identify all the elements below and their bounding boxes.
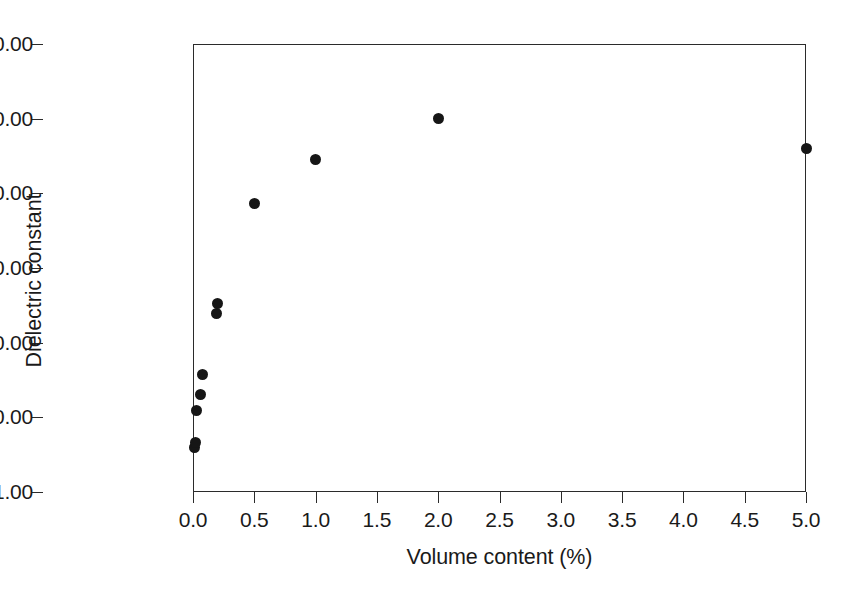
x-axis-tick [561,492,562,503]
x-axis-tick-label: 3.0 [547,508,576,532]
x-axis-tick [500,492,501,503]
y-axis-title: Dielectric constant [22,161,47,401]
plot-area [193,44,806,492]
x-axis-tick-label: 0.0 [179,508,208,532]
x-axis-tick [316,492,317,503]
x-axis-tick [438,492,439,503]
y-axis-tick-label: 1.00 [0,480,33,504]
data-point [191,405,202,416]
data-point [211,308,222,319]
x-axis-tick [622,492,623,503]
x-axis-tick-label: 4.5 [730,508,759,532]
figure: 1.0010.00100.001000.0010000.00100000.001… [0,0,849,594]
x-axis-tick [683,492,684,503]
x-axis-tick [254,492,255,503]
x-axis-tick [377,492,378,503]
x-axis-tick-label: 2.5 [485,508,514,532]
x-axis-tick-label: 2.0 [424,508,453,532]
x-axis-tick [745,492,746,503]
y-axis-tick-label: 100000.00 [0,107,33,131]
y-axis-tick [32,44,43,45]
x-axis-tick-label: 1.0 [301,508,330,532]
data-point [249,198,260,209]
x-axis-tick [806,492,807,503]
y-axis-tick [32,417,43,418]
data-point [190,437,201,448]
x-axis-title: Volume content (%) [193,545,806,570]
x-axis-tick-label: 1.5 [363,508,392,532]
x-axis-tick-label: 4.0 [669,508,698,532]
y-axis-tick [32,119,43,120]
data-point [801,143,812,154]
x-axis-tick-label: 3.5 [608,508,637,532]
y-axis-tick-label: 10.00 [0,405,33,429]
x-axis-tick [193,492,194,503]
data-point [433,113,444,124]
y-axis-tick-label: 1000000.00 [0,32,33,56]
x-axis-tick-label: 5.0 [792,508,821,532]
x-axis-tick-label: 0.5 [240,508,269,532]
y-axis-tick [32,492,43,493]
